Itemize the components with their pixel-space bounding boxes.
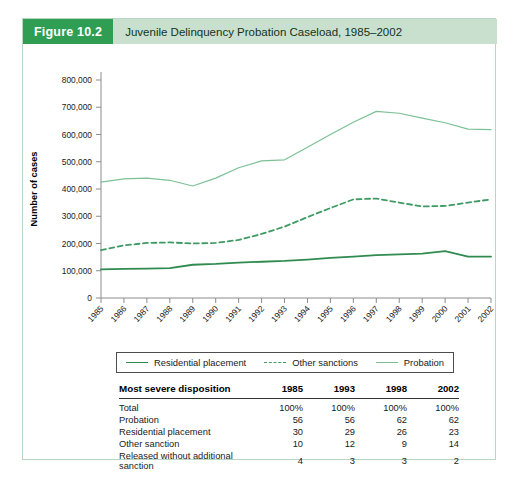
table-cell-label: Residential placement bbox=[119, 426, 251, 438]
x-axis-ticks: 1985198619871988198919901991199219931994… bbox=[85, 298, 495, 324]
table-cell-value: 3 bbox=[355, 450, 407, 472]
table-row: Other sanction1012914 bbox=[119, 438, 459, 450]
chart-area: 0100,000200,000300,000400,000500,000600,… bbox=[23, 44, 497, 354]
x-tick-label: 1993 bbox=[269, 303, 289, 324]
table-cell-value: 100% bbox=[251, 399, 303, 415]
legend-item-residential-placement: Residential placement bbox=[126, 357, 246, 368]
x-tick-label: 2001 bbox=[452, 303, 472, 324]
table-cell-value: 14 bbox=[407, 438, 459, 450]
table-cell-value: 3 bbox=[303, 450, 355, 472]
x-tick-label: 1985 bbox=[85, 303, 105, 324]
table-cell-value: 10 bbox=[251, 438, 303, 450]
x-tick-label: 1986 bbox=[108, 303, 128, 324]
table-cell-value: 56 bbox=[251, 414, 303, 426]
x-tick-label: 1996 bbox=[338, 303, 358, 324]
y-axis-ticks: 0100,000200,000300,000400,000500,000600,… bbox=[62, 75, 101, 303]
x-tick-label: 1998 bbox=[384, 303, 404, 324]
x-tick-label: 1999 bbox=[407, 303, 427, 324]
table-cell-label: Probation bbox=[119, 414, 251, 426]
x-tick-label: 1994 bbox=[292, 303, 312, 324]
table-row: Total100%100%100%100% bbox=[119, 399, 459, 415]
x-tick-label: 1988 bbox=[154, 303, 174, 324]
table-head: Most severe disposition 1985 1993 1998 2… bbox=[119, 383, 459, 399]
chart-legend: Residential placement Other sanctions Pr… bbox=[116, 352, 454, 373]
figure-header: Figure 10.2 Juvenile Delinquency Probati… bbox=[23, 19, 497, 44]
table-col-header-1985: 1985 bbox=[251, 383, 303, 399]
series-line-residential-placement bbox=[101, 251, 491, 269]
legend-label-residential-placement: Residential placement bbox=[154, 357, 246, 368]
table-cell-value: 29 bbox=[303, 426, 355, 438]
legend-swatch-residential-placement bbox=[126, 362, 148, 363]
y-tick-label: 400,000 bbox=[62, 184, 93, 194]
table-cell-label: Total bbox=[119, 399, 251, 415]
x-tick-label: 2000 bbox=[430, 303, 450, 324]
x-tick-label: 1989 bbox=[177, 303, 197, 324]
line-chart: 0100,000200,000300,000400,000500,000600,… bbox=[23, 44, 497, 354]
table-cell-value: 4 bbox=[251, 450, 303, 472]
table-col-header-1998: 1998 bbox=[355, 383, 407, 399]
x-tick-label: 1992 bbox=[246, 303, 266, 324]
figure-number-badge: Figure 10.2 bbox=[23, 19, 113, 44]
table-cell-value: 100% bbox=[407, 399, 459, 415]
x-tick-label: 1997 bbox=[361, 303, 381, 324]
legend-swatch-other-sanctions bbox=[264, 362, 286, 363]
y-tick-label: 200,000 bbox=[62, 239, 93, 249]
series-line-probation bbox=[101, 111, 491, 186]
series-lines bbox=[101, 111, 491, 269]
legend-swatch-probation bbox=[376, 362, 398, 363]
y-tick-label: 0 bbox=[87, 293, 92, 303]
table-col-header-2002: 2002 bbox=[407, 383, 459, 399]
table-header-row: Most severe disposition 1985 1993 1998 2… bbox=[119, 383, 459, 399]
y-tick-label: 300,000 bbox=[62, 211, 93, 221]
table-row: Released without additional sanction4332 bbox=[119, 450, 459, 472]
figure-title: Juvenile Delinquency Probation Caseload,… bbox=[113, 19, 402, 44]
legend-label-probation: Probation bbox=[404, 357, 444, 368]
table-cell-value: 9 bbox=[355, 438, 407, 450]
y-tick-label: 600,000 bbox=[62, 130, 93, 140]
table-cell-label: Other sanction bbox=[119, 438, 251, 450]
series-line-other-sanctions bbox=[101, 199, 491, 251]
x-tick-label: 2002 bbox=[475, 303, 495, 324]
y-tick-label: 700,000 bbox=[62, 102, 93, 112]
table-row: Probation56566262 bbox=[119, 414, 459, 426]
y-tick-label: 500,000 bbox=[62, 157, 93, 167]
table-col-header-1993: 1993 bbox=[303, 383, 355, 399]
x-tick-label: 1987 bbox=[131, 303, 151, 324]
y-axis-title: Number of cases bbox=[29, 152, 39, 227]
y-tick-label: 800,000 bbox=[62, 75, 93, 85]
table-cell-value: 30 bbox=[251, 426, 303, 438]
table-cell-value: 23 bbox=[407, 426, 459, 438]
table-cell-value: 100% bbox=[303, 399, 355, 415]
table-row-header: Most severe disposition bbox=[119, 383, 251, 399]
legend-label-other-sanctions: Other sanctions bbox=[292, 357, 358, 368]
table-cell-value: 26 bbox=[355, 426, 407, 438]
x-tick-label: 1995 bbox=[315, 303, 335, 324]
table-cell-label: Released without additional sanction bbox=[119, 450, 251, 472]
table-cell-value: 56 bbox=[303, 414, 355, 426]
legend-item-probation: Probation bbox=[376, 357, 444, 368]
x-tick-label: 1990 bbox=[200, 303, 220, 324]
figure-container: Figure 10.2 Juvenile Delinquency Probati… bbox=[22, 18, 496, 460]
table-cell-value: 12 bbox=[303, 438, 355, 450]
x-tick-label: 1991 bbox=[223, 303, 243, 324]
y-tick-label: 100,000 bbox=[62, 266, 93, 276]
legend-item-other-sanctions: Other sanctions bbox=[264, 357, 358, 368]
table-cell-value: 62 bbox=[407, 414, 459, 426]
table-cell-value: 100% bbox=[355, 399, 407, 415]
table-cell-value: 2 bbox=[407, 450, 459, 472]
table-row: Residential placement30292623 bbox=[119, 426, 459, 438]
table-cell-value: 62 bbox=[355, 414, 407, 426]
table-body: Total100%100%100%100%Probation56566262Re… bbox=[119, 399, 459, 473]
disposition-table: Most severe disposition 1985 1993 1998 2… bbox=[119, 383, 459, 472]
